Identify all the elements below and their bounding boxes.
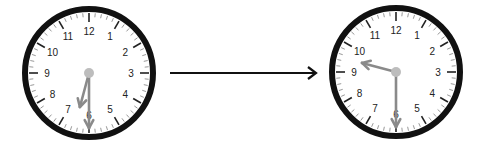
clock-numeral: 9: [351, 67, 357, 78]
clock-numeral: 4: [430, 88, 436, 99]
clock-numeral: 9: [44, 68, 50, 79]
clock-numeral: 8: [357, 88, 363, 99]
clock-numeral: 11: [370, 30, 381, 41]
clock-numeral: 1: [414, 30, 420, 41]
clock-numeral: 2: [123, 47, 129, 58]
clock-numeral: 7: [372, 103, 378, 114]
clock-center: [84, 68, 94, 78]
clock-numeral: 11: [63, 31, 74, 42]
clock-center: [391, 67, 401, 77]
clock-numeral: 4: [123, 89, 129, 100]
clock-numeral: 12: [390, 25, 402, 36]
clock-numeral: 1: [107, 31, 113, 42]
end-clock: 121234567891011: [332, 8, 460, 136]
start-clock: 121234567891011: [25, 9, 153, 137]
clock-numeral: 12: [83, 26, 95, 37]
clock-numeral: 5: [414, 103, 420, 114]
clock-numeral: 7: [65, 104, 71, 115]
clock-numeral: 5: [107, 104, 113, 115]
clock-numeral: 3: [128, 68, 134, 79]
transition-arrow-icon: [170, 67, 316, 79]
clock-numeral: 10: [47, 47, 59, 58]
clock-numeral: 8: [50, 89, 56, 100]
clock-numeral: 2: [430, 46, 436, 57]
clock-numeral: 10: [354, 46, 366, 57]
clock-diagram: 121234567891011 121234567891011: [0, 0, 482, 147]
clock-numeral: 3: [435, 67, 441, 78]
